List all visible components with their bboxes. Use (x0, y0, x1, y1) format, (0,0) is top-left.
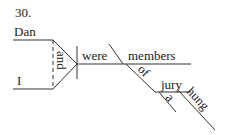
sentence-diagram: 30. Dan I and were members of jury a hun… (0, 0, 227, 135)
subject1: Dan (14, 24, 36, 39)
problem-number: 30. (15, 5, 31, 20)
subject2: I (17, 73, 21, 88)
verb: were (82, 48, 107, 63)
object: jury (160, 77, 182, 92)
complement: members (128, 48, 176, 63)
modifier: hung (184, 84, 213, 114)
complement-divider (109, 44, 123, 64)
